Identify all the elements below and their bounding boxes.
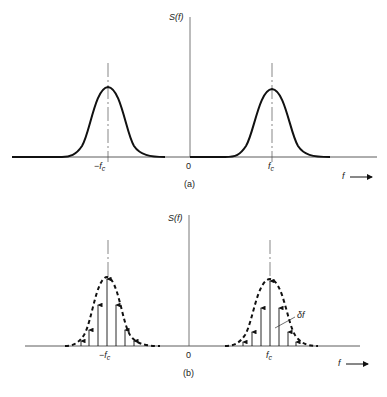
x-axis-label-a: f: [342, 171, 345, 181]
tick-pos-fc-a: fc: [268, 161, 274, 171]
y-axis-label-a: S(f): [169, 12, 184, 22]
spectrum-lobe-neg-a: [12, 87, 165, 157]
tick-neg-fc-a: −fc: [94, 161, 105, 171]
delta-f-label: δf: [297, 310, 305, 320]
panel-b: [25, 215, 368, 364]
y-axis-label-b: S(f): [168, 213, 183, 223]
impulses-neg-b: [81, 279, 134, 346]
envelope-neg-b: [65, 277, 160, 346]
caption-a: (a): [184, 179, 195, 189]
tick-neg-fc-b: −fc: [99, 350, 110, 360]
tick-zero-a: 0: [186, 161, 191, 171]
spectrum-diagram: [0, 0, 387, 397]
tick-pos-fc-b: fc: [266, 350, 272, 360]
x-axis-label-b: f: [338, 358, 341, 368]
tick-zero-b: 0: [186, 350, 191, 360]
panel-a: [12, 17, 377, 177]
caption-b: (b): [183, 368, 194, 378]
spectrum-lobe-pos-a: [190, 89, 330, 157]
